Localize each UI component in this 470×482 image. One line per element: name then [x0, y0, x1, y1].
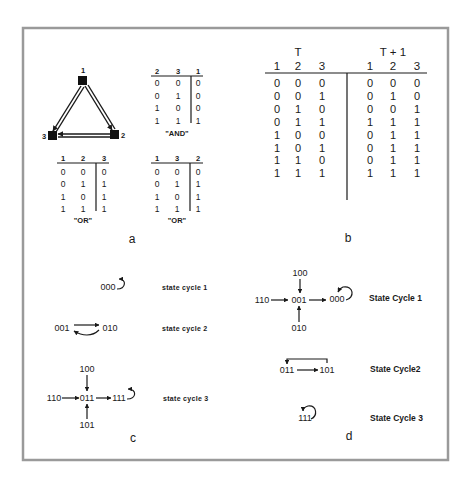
table-caption: "AND" — [165, 129, 189, 138]
table-cell: 1 — [390, 90, 396, 102]
state-011: 011 — [80, 393, 94, 403]
network-node-1 — [78, 76, 87, 85]
table-cell: 0 — [274, 116, 280, 128]
table-header: 1 — [155, 154, 159, 163]
node-label-2: 2 — [121, 131, 125, 140]
table-cell: 1 — [295, 154, 301, 166]
table-cell: 0 — [176, 78, 181, 88]
cycle-label-d1: State Cycle 1 — [369, 293, 422, 303]
table-cell: 1 — [274, 154, 280, 166]
table-header: 3 — [175, 154, 179, 163]
table-cell: 1 — [175, 179, 180, 189]
table-cell: 1 — [390, 129, 396, 141]
network-node-2 — [110, 130, 119, 139]
column-header: 2 — [390, 60, 396, 72]
table-cell: 1 — [196, 179, 201, 189]
state-100: 100 — [292, 268, 307, 278]
table-cell: 0 — [81, 192, 86, 202]
table-cell: 1 — [155, 192, 160, 202]
table-cell: 1 — [390, 116, 396, 128]
table-cell: 0 — [176, 103, 181, 113]
table-cell: 1 — [196, 204, 201, 214]
table-cell: 1 — [274, 167, 280, 179]
table-cell: 1 — [295, 103, 301, 115]
column-header: 3 — [414, 60, 420, 72]
table-header: 1 — [196, 67, 200, 76]
table-cell: 1 — [295, 167, 301, 179]
table-cell: 1 — [390, 142, 396, 154]
table-cell: 1 — [414, 167, 420, 179]
table-cell: 0 — [367, 142, 373, 154]
table-cell: 1 — [196, 192, 201, 202]
table-cell: 1 — [155, 103, 160, 113]
table-cell: 0 — [274, 77, 280, 89]
table-cell: 1 — [390, 167, 396, 179]
table-cell: 0 — [61, 167, 66, 177]
table-cell: 0 — [414, 77, 420, 89]
state-110: 110 — [255, 295, 269, 305]
table-cell: 0 — [295, 90, 301, 102]
table-cell: 0 — [196, 78, 201, 88]
table-cell: 0 — [155, 78, 160, 88]
table-cell: 1 — [81, 179, 86, 189]
state-010: 010 — [291, 323, 306, 333]
table-cell: 0 — [155, 179, 160, 189]
table-cell: 0 — [319, 129, 325, 141]
state-110: 110 — [47, 393, 61, 403]
cycle-label-c1: state cycle 1 — [162, 284, 208, 292]
table-cell: 0 — [367, 90, 373, 102]
state-000: 000 — [100, 282, 115, 292]
state-101: 101 — [79, 420, 94, 430]
column-header: 3 — [319, 60, 325, 72]
table-cell: 1 — [274, 129, 280, 141]
table-cell: 0 — [367, 77, 373, 89]
table-cell: 1 — [319, 90, 325, 102]
table-cell: 1 — [155, 204, 160, 214]
table-cell: 1 — [102, 179, 107, 189]
table-cell: 1 — [414, 129, 420, 141]
table-cell: 1 — [176, 91, 181, 101]
table-cell: 0 — [295, 129, 301, 141]
figure-canvas: 1 3 2 2 3 1 0 0 0 0 1 0 1 0 0 1 1 1 "AND… — [0, 0, 470, 482]
table-cell: 1 — [196, 116, 201, 126]
table-cell: 0 — [390, 77, 396, 89]
table-cell: 0 — [367, 129, 373, 141]
group-header-t1: T + 1 — [380, 46, 406, 58]
table-cell: 1 — [102, 192, 107, 202]
table-header: 3 — [176, 67, 180, 76]
state-011: 011 — [280, 365, 294, 375]
column-header: 2 — [295, 60, 301, 72]
node-label-1: 1 — [81, 66, 85, 75]
table-cell: 1 — [367, 167, 373, 179]
table-cell: 0 — [274, 90, 280, 102]
state-001: 001 — [291, 295, 306, 305]
panel-label-d: d — [346, 429, 353, 443]
table-cell: 0 — [319, 77, 325, 89]
table-cell: 1 — [274, 142, 280, 154]
table-header: 2 — [155, 67, 159, 76]
cycle-label-d2: State Cycle2 — [370, 364, 421, 374]
column-header: 1 — [274, 60, 280, 72]
table-cell: 0 — [367, 103, 373, 115]
table-cell: 0 — [196, 91, 201, 101]
table-cell: 0 — [367, 154, 373, 166]
table-cell: 0 — [295, 142, 301, 154]
table-cell: 1 — [61, 204, 66, 214]
table-cell: 0 — [102, 167, 107, 177]
table-cell: 0 — [175, 167, 180, 177]
table-cell: 1 — [102, 204, 107, 214]
table-cell: 1 — [367, 116, 373, 128]
cycle-label-c3: state cycle 3 — [163, 395, 209, 403]
table-cell: 0 — [390, 103, 396, 115]
table-cell: 0 — [155, 91, 160, 101]
table-cell: 0 — [61, 179, 66, 189]
state-111: 111 — [112, 393, 126, 403]
table-cell: 0 — [319, 154, 325, 166]
node-label-3: 3 — [42, 132, 46, 141]
table-cell: 1 — [175, 204, 180, 214]
state-101: 101 — [319, 365, 334, 375]
state-010: 010 — [102, 323, 117, 333]
panel-label-b: b — [345, 231, 352, 245]
table-cell: 0 — [414, 90, 420, 102]
table-cell: 0 — [196, 103, 201, 113]
